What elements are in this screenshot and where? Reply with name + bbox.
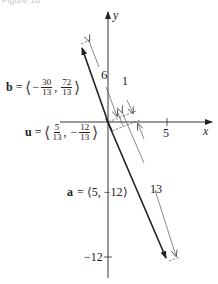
x-tick-label: 5 [163, 126, 169, 141]
x-axis-label: x [203, 124, 208, 139]
b-comp1-fraction: 30 13 [41, 78, 52, 97]
b-dimension [81, 39, 117, 116]
u-sep: , [63, 125, 66, 140]
u-name: u [25, 125, 32, 140]
y-axis-label: y [113, 8, 118, 23]
b-equals: = [16, 80, 23, 95]
u-comp1-fraction: 5 13 [52, 123, 61, 142]
b-equation: b = ⟨ − 30 13 , 72 13 ⟩ [6, 78, 80, 97]
b-name: b [6, 80, 13, 95]
y-tick-label: −12 [84, 250, 103, 265]
b-open-bracket: ⟨ [25, 78, 31, 97]
a-name: a [67, 185, 73, 200]
b-comp1-sign: − [32, 80, 39, 95]
u-equals: = [35, 125, 42, 140]
u-comp2-sign: − [70, 125, 77, 140]
vector-u [108, 122, 112, 131]
vector-b [82, 48, 108, 122]
u-length-label: 1 [122, 74, 128, 89]
b-length-label: 6 [101, 67, 108, 83]
a-value: = ⟨5, −12⟩ [77, 185, 128, 200]
u-close-bracket: ⟩ [92, 123, 98, 142]
b-sep: , [54, 80, 57, 95]
b-comp2-fraction: 72 13 [61, 78, 72, 97]
b-close-bracket: ⟩ [74, 78, 80, 97]
u-open-bracket: ⟨ [44, 123, 50, 142]
u-comp2-fraction: 12 13 [79, 123, 90, 142]
a-equation: a = ⟨5, −12⟩ [67, 185, 128, 200]
u-equation: u = ⟨ 5 13 , − 12 13 ⟩ [25, 123, 98, 142]
a-length-label: 13 [150, 182, 162, 197]
vector-diagram [0, 0, 218, 284]
